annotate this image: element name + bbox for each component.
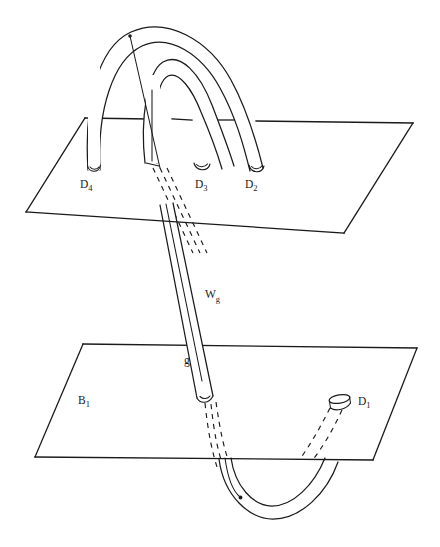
upper-plane-top-edge-right bbox=[256, 121, 413, 123]
d4-tube-fill bbox=[88, 50, 100, 170]
bottom-loop-core-endpoint-dot bbox=[239, 496, 243, 500]
label-d2-base: D bbox=[245, 178, 253, 190]
label-d4: D4 bbox=[80, 178, 93, 193]
wg-core-guide-top-dot bbox=[128, 34, 132, 38]
label-wg-sub: g bbox=[216, 294, 221, 304]
upper-plane-bottom-edge bbox=[26, 212, 344, 233]
label-d4-sub: 4 bbox=[88, 183, 93, 193]
d4-tube bbox=[88, 50, 101, 171]
label-d3-base: D bbox=[195, 178, 203, 190]
g-tube-upper-fill bbox=[146, 75, 160, 163]
label-d2: D2 bbox=[245, 178, 258, 193]
label-d1-base: D bbox=[358, 395, 366, 407]
upper-plane-left-edge bbox=[26, 118, 85, 212]
label-d2-sub: 2 bbox=[253, 183, 257, 193]
label-d3: D3 bbox=[195, 178, 208, 193]
label-wg: Wg bbox=[205, 288, 221, 304]
g-tube-upper-end bbox=[146, 75, 160, 166]
tube-diagram-svg: D4 D3 D2 Wg g B1 D1 bbox=[0, 0, 440, 547]
label-g: g bbox=[184, 354, 190, 367]
upper-plane-top-edge-midA bbox=[172, 119, 192, 120]
figure-root: D4 D3 D2 Wg g B1 D1 bbox=[0, 0, 440, 547]
label-b1-sub: 1 bbox=[86, 399, 90, 409]
label-d3-sub: 3 bbox=[203, 183, 207, 193]
outer-arch-fill bbox=[87, 27, 263, 171]
outer-arch-d4-to-d2 bbox=[87, 27, 263, 171]
label-g-base: g bbox=[184, 354, 190, 367]
label-d4-base: D bbox=[80, 178, 88, 190]
upper-plane-right-edge bbox=[344, 123, 413, 233]
d3-tube bbox=[194, 163, 210, 170]
bottom-loop-fill bbox=[219, 458, 337, 518]
d3-tube-end-inner-arc bbox=[197, 164, 208, 167]
label-d1-sub: 1 bbox=[366, 400, 370, 410]
label-wg-base: W bbox=[205, 288, 216, 300]
